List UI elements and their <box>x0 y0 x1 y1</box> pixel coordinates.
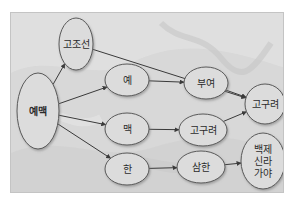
node-label: 맥 <box>123 124 132 135</box>
arrow-han-to-samhan <box>149 168 177 169</box>
arrow-yemaek-to-han <box>58 124 111 158</box>
node-buyeo: 부여 <box>184 67 228 99</box>
arrow-ye-to-buyeo <box>149 81 184 82</box>
diagram-panel: 예맥고조선예맥한부여고구려삼한고구려백제신라가야 <box>10 12 284 193</box>
node-label: 백제 <box>254 144 272 155</box>
arrow-yemaek-to-gojoseon <box>53 64 65 85</box>
node-label: 가야 <box>254 168 272 179</box>
arrow-buyeo-to-goguryeo_right <box>226 90 246 97</box>
lineage-diagram: 예맥고조선예맥한부여고구려삼한고구려백제신라가야 <box>11 13 284 193</box>
node-han: 한 <box>105 153 149 185</box>
node-label: 삼한 <box>192 162 210 173</box>
node-ye: 예 <box>105 64 149 96</box>
node-goguryeo_mid: 고구려 <box>179 114 227 146</box>
node-three_kingdoms: 백제신라가야 <box>241 133 284 189</box>
node-label: 고구려 <box>252 99 279 110</box>
arrow-samhan-to-three_kingdoms <box>225 163 241 165</box>
node-gojoseon: 고조선 <box>59 18 93 70</box>
arrow-goguryeo_mid-to-goguryeo_right <box>223 112 246 122</box>
node-label: 예맥 <box>29 105 47 117</box>
nodes-group: 예맥고조선예맥한부여고구려삼한고구려백제신라가야 <box>17 18 284 189</box>
node-maek: 맥 <box>105 113 149 145</box>
node-label: 고조선 <box>63 39 90 50</box>
node-label: 부여 <box>197 78 215 89</box>
node-label: 예 <box>123 75 132 86</box>
node-goguryeo_right: 고구려 <box>245 84 284 124</box>
node-yemaek: 예맥 <box>17 73 59 149</box>
node-label: 신라 <box>254 156 272 167</box>
arrow-yemaek-to-maek <box>59 115 106 124</box>
node-samhan: 삼한 <box>177 151 225 183</box>
node-label: 고구려 <box>190 125 217 136</box>
arrow-yemaek-to-ye <box>59 87 108 104</box>
node-label: 한 <box>123 164 132 175</box>
